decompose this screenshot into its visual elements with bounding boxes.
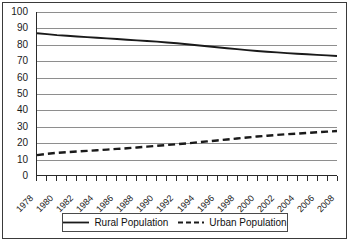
y-axis-tick-label: 50: [17, 89, 28, 99]
y-axis-tick-label: 90: [17, 23, 28, 33]
y-axis-tick-label: 30: [17, 122, 28, 132]
legend-item-rural-population: Rural Population: [63, 217, 168, 228]
chart-container: 0102030405060708090100 19781980198219841…: [0, 0, 349, 241]
legend-line-solid-icon: [63, 218, 89, 227]
y-axis-tick-label: 80: [17, 40, 28, 50]
x-axis-tick: [337, 176, 338, 181]
legend-line-dashed-icon: [178, 218, 204, 227]
y-axis-tick-label: 40: [17, 105, 28, 115]
y-axis-tick-label: 100: [11, 7, 28, 17]
x-axis-labels: 1978198019821984198619881990199219941996…: [36, 181, 337, 211]
y-axis-tick-label: 70: [17, 56, 28, 66]
y-axis-tick-label: 20: [17, 138, 28, 148]
legend-item-urban-population: Urban Population: [178, 217, 286, 228]
plot-area: [36, 12, 337, 176]
legend-label-urban: Urban Population: [209, 217, 286, 228]
series-layer: [37, 12, 337, 175]
y-axis-tick-label: 10: [17, 155, 28, 165]
series-line-rural: [37, 33, 337, 56]
legend-label-rural: Rural Population: [94, 217, 168, 228]
chart-legend: Rural Population Urban Population: [62, 213, 288, 232]
y-axis-tick-label: 60: [17, 73, 28, 83]
y-axis-labels: 0102030405060708090100: [0, 12, 32, 176]
series-line-urban: [37, 131, 337, 155]
y-axis-tick-label: 0: [22, 171, 28, 181]
